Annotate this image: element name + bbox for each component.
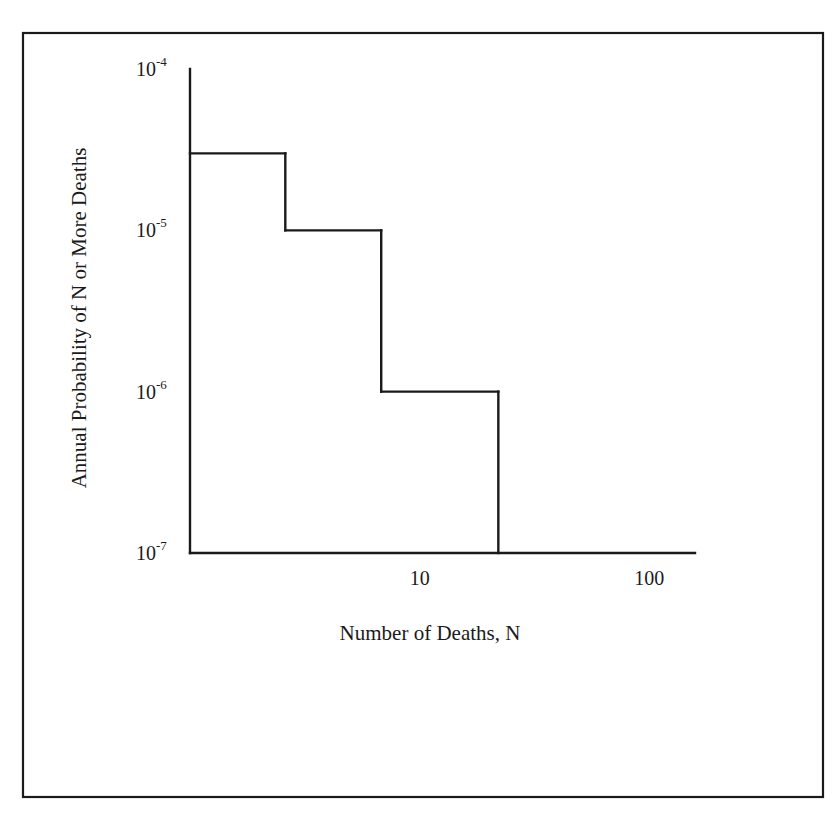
y-axis-label: Annual Probability of N or More Deaths xyxy=(67,148,91,489)
frame-border xyxy=(23,33,823,797)
x-axis-label: Number of Deaths, N xyxy=(340,621,521,645)
x-tick-label: 10 xyxy=(410,567,430,589)
y-tick-label: 10-5 xyxy=(136,215,167,241)
y-tick-label: 10-4 xyxy=(136,54,167,80)
x-tick-label: 100 xyxy=(634,567,664,589)
chart: 1010010-410-510-610-7 Number of Deaths, … xyxy=(0,0,838,818)
y-tick-label: 10-7 xyxy=(136,538,167,564)
y-tick-label: 10-6 xyxy=(136,377,167,403)
